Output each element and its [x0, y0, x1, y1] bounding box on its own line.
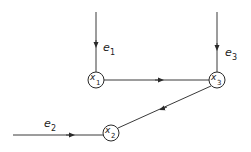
- input-edge-e2: e 2: [13, 117, 103, 135]
- e3-subscript: 3: [232, 53, 237, 62]
- e2-label: e: [44, 117, 51, 130]
- x2-label: x: [104, 125, 111, 135]
- x1-subscript: 1: [96, 79, 100, 87]
- e3-label: e: [225, 46, 232, 59]
- x3-label: x: [210, 72, 217, 82]
- input-edge-e1: e 1: [96, 12, 115, 72]
- input-edge-e3: e 3: [217, 12, 237, 72]
- node-x1: x 1: [88, 72, 104, 88]
- x2-subscript: 2: [111, 132, 115, 140]
- x3-subscript: 3: [217, 79, 221, 87]
- edge-x3-to-x2: [118, 86, 211, 128]
- signal-flow-diagram: e 1 e 3 e 2 x 1 x 3 x 2: [0, 0, 251, 152]
- node-x3: x 3: [209, 72, 225, 88]
- x1-label: x: [89, 72, 96, 82]
- e1-subscript: 1: [110, 48, 115, 57]
- e2-subscript: 2: [51, 124, 56, 133]
- e1-label: e: [103, 41, 110, 54]
- node-x2: x 2: [103, 125, 119, 141]
